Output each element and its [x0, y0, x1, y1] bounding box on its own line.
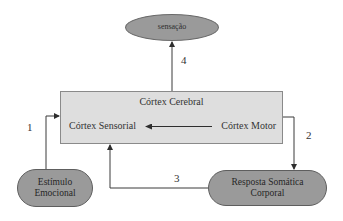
node-sensacao: sensação: [125, 14, 219, 41]
edge-4-label: 4: [181, 55, 187, 66]
node-resposta-somatica: Resposta Somática Corporal: [208, 170, 327, 206]
diagram-canvas: sensação Córtex Cerebral Córtex Sensoria…: [0, 0, 343, 221]
edge-2-label: 2: [306, 130, 312, 141]
edge-3-label: 3: [174, 173, 180, 184]
estimulo-line-2: Emocional: [34, 188, 75, 199]
node-estimulo-emocional: Estímulo Emocional: [17, 169, 93, 207]
motor-to-sensorial-arrow: [61, 92, 284, 145]
estimulo-line-1: Estímulo: [34, 177, 75, 188]
resposta-line-1: Resposta Somática: [231, 177, 303, 188]
edge-1-line: [46, 116, 59, 169]
edge-1-label: 1: [27, 122, 33, 133]
resposta-line-2: Corporal: [231, 188, 303, 199]
node-cortex-cerebral: Córtex Cerebral Córtex Sensorial Córtex …: [60, 91, 283, 144]
edge-3-line: [110, 145, 208, 188]
edge-2-line: [283, 117, 294, 169]
node-sensacao-label: sensação: [158, 23, 186, 32]
